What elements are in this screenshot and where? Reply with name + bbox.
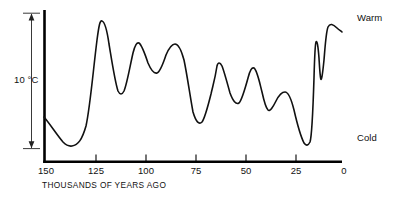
scale-bar-arrowhead-up — [29, 14, 35, 21]
x-tick-label-0: 0 — [330, 165, 358, 176]
x-tick-label-50: 50 — [232, 165, 260, 176]
x-axis-ticks — [96, 155, 296, 162]
x-tick-label-100: 100 — [132, 165, 160, 176]
cold-label: Cold — [357, 132, 377, 143]
x-axis-title: THOUSANDS OF YEARS AGO — [42, 180, 166, 190]
warm-label: Warm — [357, 12, 382, 23]
temperature-curve — [44, 21, 342, 146]
y-axis-scale-label: 10 °C — [14, 74, 38, 85]
x-tick-label-125: 125 — [82, 165, 110, 176]
x-tick-label-25: 25 — [282, 165, 310, 176]
x-tick-label-75: 75 — [182, 165, 210, 176]
x-tick-label-150: 150 — [32, 165, 60, 176]
temperature-history-chart: 10 °C Warm Cold 150 125 100 75 50 25 0 T… — [0, 0, 394, 205]
scale-bar-arrowhead-down — [29, 141, 35, 148]
